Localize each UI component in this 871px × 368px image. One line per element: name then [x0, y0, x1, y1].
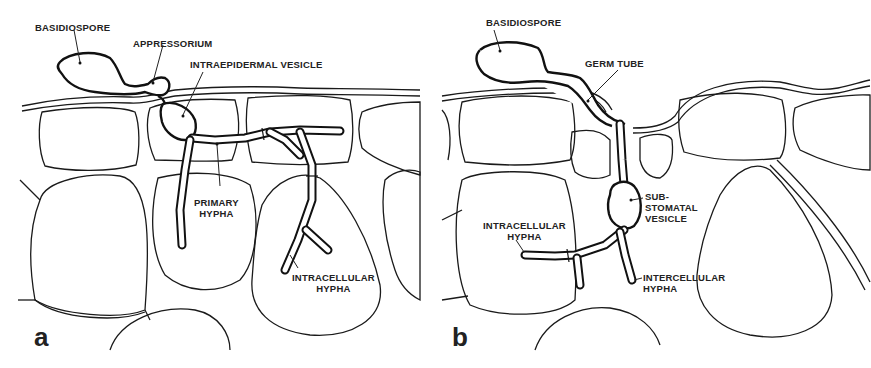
label-primary-hypha: PRIMARY HYPHA [194, 197, 239, 219]
label-substomatal-vesicle: SUB- STOMATAL VESICLE [645, 191, 698, 224]
label-intracellular-hypha-b: INTRACELLULAR HYPHA [483, 220, 566, 242]
label-intracellular-hypha-a: INTRACELLULAR HYPHA [292, 272, 375, 294]
label-intercellular-hypha: INTERCELLULAR HYPHA [643, 272, 725, 294]
label-appressorium: APPRESSORIUM [133, 38, 212, 49]
label-intraepidermal-vesicle: INTRAEPIDERMAL VESICLE [190, 59, 323, 70]
label-basidiospore-a: BASIDIOSPORE [35, 22, 110, 33]
panel-letter-b: b [452, 322, 468, 353]
panel-letter-a: a [34, 322, 48, 353]
panel-b-fungus [477, 42, 641, 285]
infection-diagram [0, 0, 871, 368]
label-germ-tube: GERM TUBE [585, 58, 644, 69]
label-basidiospore-b: BASIDIOSPORE [486, 17, 561, 28]
